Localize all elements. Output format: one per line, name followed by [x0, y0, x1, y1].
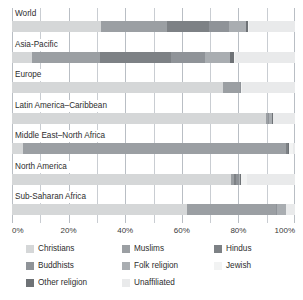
- bar-segment-christians: [12, 82, 223, 93]
- legend-swatch-icon: [122, 279, 130, 287]
- bar-row: Asia-Pacific: [12, 39, 295, 70]
- legend-label: Jewish: [226, 261, 251, 270]
- stacked-bar: [12, 82, 295, 93]
- legend-item-folk-religion[interactable]: Folk religion: [122, 261, 178, 270]
- bar-row: Europe: [12, 69, 295, 100]
- plot-area: WorldAsia-PacificEuropeLatin America–Car…: [12, 8, 295, 223]
- legend-item-hindus[interactable]: Hindus: [214, 244, 252, 253]
- bar-segment-buddhists: [171, 52, 205, 63]
- legend-label: Other religion: [38, 278, 87, 287]
- bar-segment-unaffiliated: [286, 204, 295, 215]
- bar-segment-unaffiliated: [235, 52, 295, 63]
- legend-label: Muslims: [134, 244, 164, 253]
- legend-swatch-icon: [26, 245, 34, 253]
- x-axis-tick-label: 20%: [61, 226, 77, 235]
- stacked-bar: [12, 143, 295, 154]
- bar-row-label: North America: [13, 161, 70, 173]
- bar-segment-folk-religion: [205, 52, 230, 63]
- bar-segment-christians: [12, 204, 187, 215]
- legend-label: Christians: [38, 244, 74, 253]
- bar-row: North America: [12, 161, 295, 192]
- bar-row-label: Middle East–North Africa: [13, 130, 108, 142]
- bar-row-label: Europe: [13, 69, 44, 81]
- x-axis-tick-label: 100%: [275, 226, 295, 235]
- legend-swatch-icon: [122, 245, 130, 253]
- bar-segment-muslims: [101, 21, 167, 32]
- legend-label: Hindus: [226, 244, 252, 253]
- bar-row-label: Asia-Pacific: [13, 39, 61, 51]
- bar-segment-muslims: [187, 204, 276, 215]
- bar-segment-muslims: [223, 82, 240, 93]
- stacked-bar-chart: WorldAsia-PacificEuropeLatin America–Car…: [0, 0, 303, 300]
- x-axis-tick-label: 80%: [230, 226, 246, 235]
- bar-segment-unaffiliated: [247, 174, 295, 185]
- bar-row-label: World: [13, 8, 39, 20]
- stacked-bar: [12, 52, 295, 63]
- bar-segment-christians: [12, 143, 23, 154]
- legend-item-unaffiliated[interactable]: Unaffiliated: [122, 278, 175, 287]
- stacked-bar: [12, 113, 295, 124]
- legend-item-christians[interactable]: Christians: [26, 244, 74, 253]
- bar-segment-muslims: [32, 52, 100, 63]
- legend-item-other-religion[interactable]: Other religion: [26, 278, 87, 287]
- legend-swatch-icon: [214, 245, 222, 253]
- bar-segment-unaffiliated: [293, 143, 295, 154]
- bar-segment-unaffiliated: [242, 82, 295, 93]
- bar-row-label: Latin America–Caribbean: [13, 100, 110, 112]
- legend-swatch-icon: [26, 279, 34, 287]
- bar-row: Latin America–Caribbean: [12, 100, 295, 131]
- bar-segment-unaffiliated: [249, 21, 295, 32]
- legend-label: Buddhists: [38, 261, 74, 270]
- stacked-bar: [12, 204, 295, 215]
- legend-label: Folk religion: [134, 261, 178, 270]
- legend-item-muslims[interactable]: Muslims: [122, 244, 164, 253]
- legend-swatch-icon: [122, 262, 130, 270]
- x-axis-tick-label: 60%: [174, 226, 190, 235]
- bar-segment-christians: [12, 113, 266, 124]
- bar-row: Middle East–North Africa: [12, 130, 295, 161]
- legend-label: Unaffiliated: [134, 278, 175, 287]
- stacked-bar: [12, 174, 295, 185]
- chart-legend: ChristiansBuddhistsOther religionMuslims…: [26, 244, 288, 294]
- bar-segment-muslims: [23, 143, 286, 154]
- bar-segment-christians: [12, 21, 101, 32]
- x-axis-tick-label: 0%: [12, 226, 24, 235]
- stacked-bar: [12, 21, 295, 32]
- legend-swatch-icon: [26, 262, 34, 270]
- bar-segment-christians: [12, 52, 32, 63]
- bar-segment-folk-religion: [277, 204, 286, 215]
- bar-segment-christians: [12, 174, 231, 185]
- bar-segment-buddhists: [209, 21, 229, 32]
- legend-item-buddhists[interactable]: Buddhists: [26, 261, 74, 270]
- bar-segment-unaffiliated: [273, 113, 295, 124]
- bar-segment-folk-religion: [229, 21, 246, 32]
- bar-row: World: [12, 8, 295, 39]
- bar-row: Sub-Saharan Africa: [12, 191, 295, 222]
- bar-segment-hindus: [100, 52, 172, 63]
- x-axis-tick-label: 40%: [117, 226, 133, 235]
- bar-segment-hindus: [167, 21, 209, 32]
- bar-row-label: Sub-Saharan Africa: [13, 191, 89, 203]
- x-axis: 0%20%40%60%80%100%: [12, 226, 295, 238]
- legend-item-jewish[interactable]: Jewish: [214, 261, 251, 270]
- legend-swatch-icon: [214, 262, 222, 270]
